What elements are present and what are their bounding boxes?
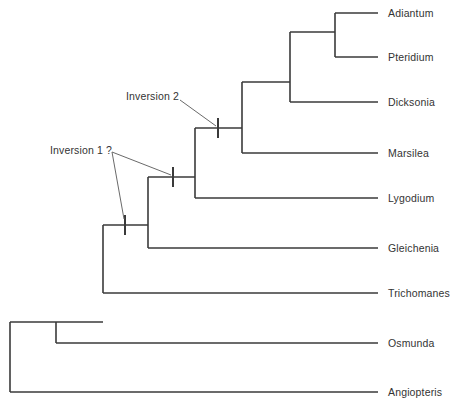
inversion-1-leader-a: [112, 152, 171, 175]
cladogram-figure: Adiantum Pteridium Dicksonia Marsilea Ly…: [0, 0, 450, 410]
taxon-label-adiantum: Adiantum: [388, 8, 434, 19]
taxon-label-dicksonia: Dicksonia: [388, 97, 435, 108]
taxon-label-angiopteris: Angiopteris: [388, 387, 442, 398]
inversion-1-leader-b: [112, 152, 124, 219]
taxon-label-trichomanes: Trichomanes: [388, 288, 450, 299]
taxon-label-pteridium: Pteridium: [388, 52, 434, 63]
inversion-2-leader: [180, 100, 216, 126]
taxon-label-gleichenia: Gleichenia: [388, 243, 439, 254]
annotation-inversion-1: Inversion 1 ?: [50, 145, 112, 156]
taxon-label-lygodium: Lygodium: [388, 193, 434, 204]
annotation-inversion-2: Inversion 2: [126, 91, 179, 102]
taxon-label-marsilea: Marsilea: [388, 148, 429, 159]
tree-drawing: [0, 0, 450, 410]
taxon-label-osmunda: Osmunda: [388, 338, 435, 349]
